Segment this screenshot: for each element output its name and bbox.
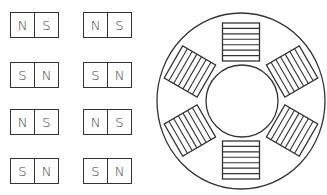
coil-winding [223,141,260,179]
inner-rotor-circle [206,65,278,137]
coil-winding [223,23,260,61]
motor-stator-diagram [0,0,327,195]
